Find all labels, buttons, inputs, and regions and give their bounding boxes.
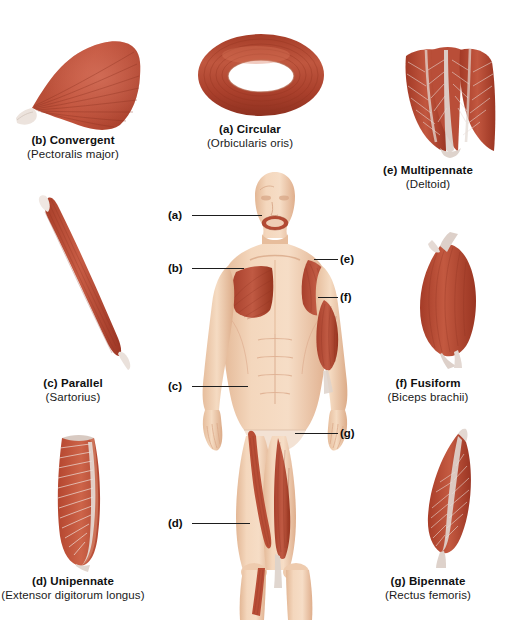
caption-subtitle: (Pectoralis major) <box>0 147 168 161</box>
caption-title: (c) Parallel <box>0 376 168 390</box>
muscle-arrangement-figure: (b) Convergent (Pectoralis major) (a) Ci… <box>0 0 509 631</box>
callout-label-g: (g) <box>340 427 355 439</box>
caption-title: (g) Bipennate <box>333 574 509 588</box>
callout-label-f: (f) <box>340 291 352 303</box>
callout-label-d: (d) <box>168 517 183 529</box>
callout-label-c: (c) <box>168 380 182 392</box>
caption-subtitle: (Rectus femoris) <box>333 588 509 602</box>
unipennate-muscle-illustration <box>32 432 140 572</box>
caption-circular: (a) Circular (Orbicularis oris) <box>155 122 345 150</box>
multipennate-muscle-illustration <box>396 22 504 158</box>
caption-subtitle: (Orbicularis oris) <box>155 136 345 150</box>
caption-fusiform: (f) Fusiform (Biceps brachii) <box>333 376 509 404</box>
caption-title: (b) Convergent <box>0 133 168 147</box>
circular-muscle-illustration <box>196 31 326 119</box>
caption-parallel: (c) Parallel (Sartorius) <box>0 376 168 404</box>
caption-title: (f) Fusiform <box>333 376 509 390</box>
caption-multipennate: (e) Multipennate (Deltoid) <box>333 163 509 191</box>
caption-subtitle: (Deltoid) <box>333 177 509 191</box>
leader-line-c <box>192 386 248 387</box>
caption-subtitle: (Extensor digitorum longus) <box>0 588 168 602</box>
callout-label-b: (b) <box>168 262 183 274</box>
bipennate-muscle-illustration <box>402 428 506 568</box>
caption-convergent: (b) Convergent (Pectoralis major) <box>0 133 168 161</box>
caption-title: (d) Unipennate <box>0 574 168 588</box>
parallel-muscle-illustration <box>26 192 136 372</box>
callout-label-e: (e) <box>340 253 354 265</box>
caption-bipennate: (g) Bipennate (Rectus femoris) <box>333 574 509 602</box>
caption-title: (a) Circular <box>155 122 345 136</box>
caption-subtitle: (Biceps brachii) <box>333 390 509 404</box>
leader-line-g <box>295 433 338 434</box>
fusiform-muscle-illustration <box>398 232 504 370</box>
leader-line-e <box>314 259 338 260</box>
leader-line-a <box>192 215 262 216</box>
caption-unipennate: (d) Unipennate (Extensor digitorum longu… <box>0 574 168 602</box>
caption-subtitle: (Sartorius) <box>0 390 168 404</box>
human-body-illustration <box>200 168 350 613</box>
leader-line-f <box>318 297 338 298</box>
callout-label-a: (a) <box>168 209 182 221</box>
leader-line-b <box>192 268 244 269</box>
caption-title: (e) Multipennate <box>333 163 509 177</box>
convergent-muscle-illustration <box>14 26 150 132</box>
leader-line-d <box>192 523 250 524</box>
